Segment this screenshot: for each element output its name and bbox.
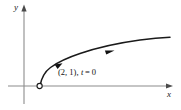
y-axis-arrowhead (21, 5, 26, 12)
annotation-coordinates: (2, 1), (58, 67, 79, 77)
point-annotation: (2, 1),t= 0 (58, 68, 96, 77)
parametric-curve-plot (0, 0, 181, 110)
x-axis-label: x (167, 90, 171, 99)
x-axis-arrowhead (166, 83, 173, 88)
annotation-parameter-variable: t (81, 67, 83, 77)
curve-direction-arrowhead-2 (105, 51, 115, 55)
y-axis-label: y (14, 3, 18, 12)
open-circle-start-point (37, 83, 42, 88)
annotation-parameter-value: = 0 (85, 67, 96, 77)
figure-container: y x (2, 1),t= 0 (0, 0, 181, 110)
parametric-curve (40, 37, 170, 86)
